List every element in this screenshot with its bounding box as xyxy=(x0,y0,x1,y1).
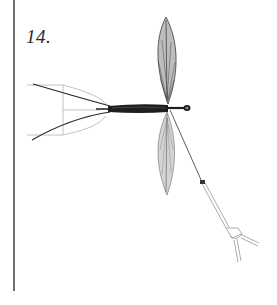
leg xyxy=(170,110,229,228)
foot-clasp xyxy=(226,228,259,262)
book-page: 14. xyxy=(0,0,277,305)
measurement-lines xyxy=(27,85,106,135)
insect-body xyxy=(108,104,191,113)
upper-wing xyxy=(158,17,176,104)
antennae xyxy=(32,84,112,140)
insect-illustration xyxy=(0,0,277,305)
lower-wing xyxy=(158,112,175,195)
